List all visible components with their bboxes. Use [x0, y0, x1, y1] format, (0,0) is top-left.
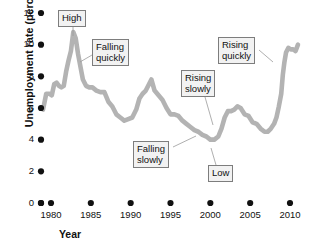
leader-line-rising-quickly — [259, 50, 273, 62]
x-tick-dot — [128, 200, 134, 206]
y-tick-label: 4 — [12, 133, 34, 144]
x-tick-label: 2010 — [270, 209, 310, 220]
y-tick-label: 12 — [12, 7, 34, 18]
annotation-high: High — [58, 10, 86, 27]
leader-line-falling-quickly — [80, 55, 92, 62]
x-axis-tick-marks — [48, 200, 293, 206]
annotation-label-line: quickly — [96, 53, 125, 64]
annotation-label-line: Falling — [96, 42, 125, 53]
x-tick-dot — [88, 200, 94, 206]
leader-line-falling-slowly — [173, 136, 196, 147]
x-tick-dot — [167, 200, 173, 206]
y-tick-dot — [38, 73, 44, 79]
x-tick-label: 1980 — [31, 209, 71, 220]
annotation-label-line: Rising — [222, 40, 251, 51]
annotation-label-line: High — [62, 13, 82, 24]
unemployment-rate-line — [43, 32, 298, 140]
x-tick-label: 1990 — [111, 209, 151, 220]
annotation-falling-slowly: Fallingslowly — [133, 141, 169, 168]
y-tick-label: 2 — [12, 165, 34, 176]
annotation-label-line: quickly — [222, 51, 251, 62]
x-tick-dot — [48, 200, 54, 206]
annotation-label-line: Low — [212, 168, 229, 179]
x-tick-label: 2005 — [230, 209, 270, 220]
annotation-label-line: Falling — [137, 144, 165, 155]
y-tick-label: 10 — [12, 38, 34, 49]
x-axis-title: Year — [40, 228, 100, 240]
x-tick-dot — [207, 200, 213, 206]
y-tick-label: 6 — [12, 102, 34, 113]
y-axis-tick-marks — [38, 10, 44, 206]
annotation-label-line: Rising — [185, 73, 211, 84]
annotation-label-line: slowly — [185, 84, 211, 95]
unemployment-rate-chart: Unemployment rate (percent) Year 0246810… — [0, 0, 310, 249]
leader-line-rising-slowly — [205, 97, 213, 125]
y-tick-label: 0 — [12, 197, 34, 208]
y-tick-label: 8 — [12, 70, 34, 81]
y-tick-dot — [38, 137, 44, 143]
x-tick-dot — [247, 200, 253, 206]
annotation-rising-slowly: Risingslowly — [181, 70, 215, 97]
origin-tick-mark — [38, 200, 44, 206]
y-tick-dot — [38, 10, 44, 16]
x-tick-label: 1995 — [151, 209, 191, 220]
annotation-rising-quickly: Risingquickly — [218, 37, 255, 64]
x-tick-dot — [287, 200, 293, 206]
leader-line-low — [211, 148, 216, 165]
y-tick-dot — [38, 168, 44, 174]
annotation-label-line: slowly — [137, 155, 165, 166]
x-tick-label: 2000 — [190, 209, 230, 220]
y-tick-dot — [38, 105, 44, 111]
x-tick-label: 1985 — [71, 209, 111, 220]
annotation-falling-quickly: Fallingquickly — [92, 39, 129, 66]
y-tick-dot — [38, 42, 44, 48]
annotation-low: Low — [208, 165, 233, 182]
